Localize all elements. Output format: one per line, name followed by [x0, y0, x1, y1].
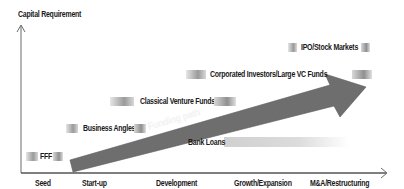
- classical-vc-bar-right: [214, 97, 236, 106]
- fff-bar-left: [26, 152, 38, 161]
- business-angles-label: Business Angles: [83, 123, 135, 133]
- stage-seed: Seed: [35, 178, 51, 188]
- stage-growth-expansion: Growth/Expansion: [234, 178, 292, 188]
- corporate-investors-bar-right: [352, 70, 372, 79]
- fff-bar-right: [53, 152, 63, 161]
- y-axis: [17, 25, 25, 173]
- business-angles-bar-left: [66, 124, 78, 133]
- bank-loans-bar: [224, 137, 349, 147]
- stage-start-up: Start-up: [82, 178, 107, 188]
- fff-label: FFF: [40, 151, 52, 161]
- stage-development: Development: [156, 178, 197, 188]
- ipo-label: IPO/Stock Markets: [301, 42, 358, 52]
- classical-vc-label: Classical Venture Funds: [140, 96, 215, 106]
- corporate-investors-label: Corporated Investors/Large VC Funds: [210, 69, 327, 79]
- bank-loans-label: Bank Loans: [188, 137, 225, 147]
- ipo-bar-right: [361, 43, 370, 52]
- classical-vc-bar-left: [110, 97, 134, 106]
- corporate-investors-bar-left: [186, 70, 206, 79]
- ipo-bar-left: [288, 43, 297, 52]
- y-axis-label: Capital Requirement: [18, 9, 81, 19]
- business-angles-bar-right: [134, 124, 146, 133]
- stage-ma-restructuring: M&A/Restructuring: [310, 178, 369, 188]
